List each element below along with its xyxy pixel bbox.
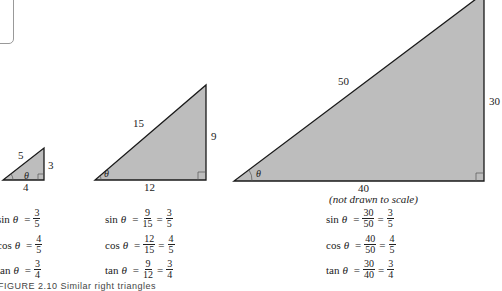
cos-equation-medium: cosθ= 1215= 45 bbox=[105, 234, 175, 255]
figure-caption: FIGURE 2.10 Similar right triangles bbox=[0, 281, 156, 291]
opp-label-large: 30 bbox=[489, 96, 500, 107]
adj-label-medium: 12 bbox=[144, 182, 155, 193]
hyp-label-medium: 15 bbox=[133, 118, 144, 129]
triangle-large bbox=[234, 0, 484, 181]
not-to-scale-note: (not drawn to scale) bbox=[329, 194, 418, 205]
theta-label-small: θ bbox=[24, 170, 29, 181]
opp-label-small: 3 bbox=[48, 160, 54, 171]
cos-equation-small: cosθ= 45 bbox=[0, 234, 42, 255]
tan-equation-small: tanθ= 34 bbox=[0, 259, 41, 280]
triangle-medium bbox=[95, 85, 206, 180]
opp-label-medium: 9 bbox=[211, 131, 217, 142]
theta-label-medium: θ bbox=[104, 168, 109, 179]
theta-label-large: θ bbox=[256, 168, 261, 179]
cos-equation-large: cosθ= 4050= 45 bbox=[326, 234, 396, 255]
adj-label-small: 4 bbox=[23, 182, 29, 193]
hyp-label-large: 50 bbox=[338, 76, 349, 87]
sin-equation-large: sinθ= 3050= 35 bbox=[326, 208, 394, 229]
tan-equation-medium: tanθ= 912= 34 bbox=[105, 259, 173, 280]
sin-equation-small: sinθ= 35 bbox=[0, 208, 40, 229]
hyp-label-small: 5 bbox=[18, 150, 24, 161]
sin-equation-medium: sinθ= 915= 35 bbox=[105, 208, 173, 229]
tan-equation-large: tanθ= 3040= 34 bbox=[326, 259, 394, 280]
